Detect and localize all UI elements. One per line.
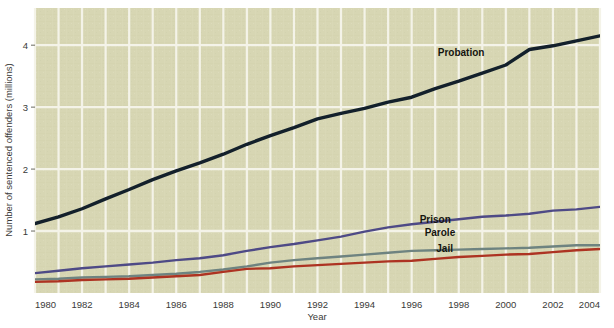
y-tick-label: 4	[23, 40, 28, 51]
x-axis-title: Year	[307, 311, 326, 322]
x-tick-label: 2004	[579, 299, 600, 310]
x-tick-label: 1994	[354, 299, 375, 310]
x-tick-label: 1982	[72, 299, 93, 310]
line-chart: ProbationPrisonParoleJail 19801982198419…	[0, 0, 614, 328]
x-tick-label: 1996	[401, 299, 422, 310]
x-tick-label: 1992	[307, 299, 328, 310]
series-label-prison: Prison	[420, 214, 451, 225]
x-tick-label: 1980	[35, 299, 56, 310]
x-tick-label: 1998	[448, 299, 469, 310]
y-tick-label: 3	[23, 102, 28, 113]
x-axis-tick-labels: 1980198219841986198819901992199419961998…	[35, 299, 600, 310]
x-tick-label: 1990	[260, 299, 281, 310]
series-label-probation: Probation	[438, 47, 485, 58]
series-label-parole: Parole	[425, 227, 456, 238]
x-tick-label: 2000	[495, 299, 516, 310]
x-tick-label: 1988	[213, 299, 234, 310]
y-axis-title: Number of sentenced offenders (millions)	[3, 63, 14, 237]
y-tick-label: 1	[23, 226, 28, 237]
series-label-jail: Jail	[436, 243, 453, 254]
x-tick-label: 1986	[166, 299, 187, 310]
y-tick-label: 2	[23, 164, 28, 175]
chart-canvas: ProbationPrisonParoleJail 19801982198419…	[0, 0, 614, 328]
x-tick-label: 1984	[119, 299, 140, 310]
x-tick-label: 2002	[542, 299, 563, 310]
